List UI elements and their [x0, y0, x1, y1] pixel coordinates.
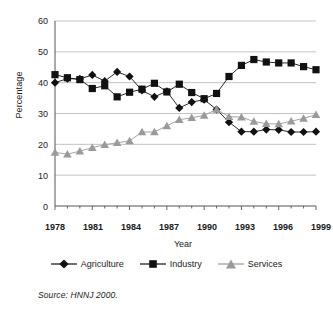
chart-legend: Agriculture Industry Services [0, 258, 333, 270]
data-series-layer [51, 56, 321, 158]
source-note: Source: HNNJ 2000. [38, 290, 118, 300]
legend-item-services: Services [218, 258, 283, 270]
gridlines [55, 21, 316, 175]
legend-item-industry: Industry [140, 258, 202, 270]
x-axis-ticks [55, 206, 316, 210]
legend-label-agriculture: Agriculture [81, 259, 124, 269]
agriculture-marker-icon [51, 258, 77, 270]
legend-label-industry: Industry [170, 259, 202, 269]
industry-marker-icon [140, 258, 166, 270]
chart-figure: Percentage Year 60 50 40 30 20 10 0 1978… [0, 0, 333, 312]
legend-item-agriculture: Agriculture [51, 258, 124, 270]
services-marker-icon [218, 258, 244, 270]
legend-label-services: Services [248, 259, 283, 269]
